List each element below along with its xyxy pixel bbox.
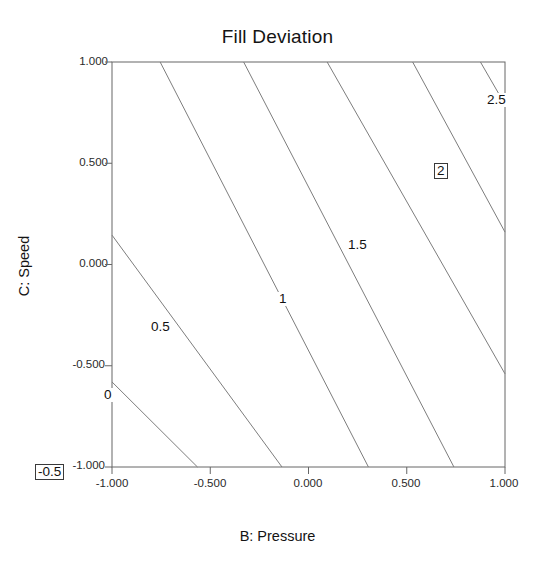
contour-plot-figure: Fill Deviation C: Speed B: Pressure 1.00…	[0, 0, 555, 569]
contour-line	[413, 62, 505, 232]
contour-level-label: 1	[277, 292, 289, 306]
contour-level-label: 2.5	[485, 93, 508, 107]
contour-line	[112, 382, 197, 467]
contour-line	[112, 235, 282, 467]
contour-level-label: 2	[434, 163, 448, 179]
contour-lines	[112, 62, 505, 467]
contour-level-label: 1.5	[346, 238, 369, 252]
contour-line	[244, 62, 454, 467]
contour-line	[160, 62, 368, 467]
contour-plot-canvas	[0, 0, 555, 569]
contour-level-label: -0.5	[35, 464, 64, 480]
contour-line	[327, 62, 505, 374]
contour-level-label: 0	[102, 388, 114, 402]
contour-level-label: 0.5	[149, 320, 172, 334]
